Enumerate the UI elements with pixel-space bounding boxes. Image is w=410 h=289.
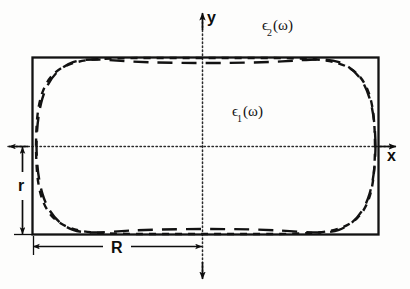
axes-group: [8, 13, 396, 279]
inner-medium-argument: (ω): [243, 103, 263, 119]
x-axis-label: x: [387, 148, 396, 164]
y-axis-label: y: [207, 10, 216, 26]
outer-medium-argument: (ω): [273, 17, 293, 33]
inner-medium-subscript: 1: [237, 113, 242, 124]
inner-medium-label: ϵ1(ω): [232, 104, 263, 122]
outer-medium-subscript: 2: [267, 27, 272, 38]
width-dimension-label: R: [111, 240, 123, 256]
outer-medium-label: ϵ2(ω): [262, 18, 293, 36]
height-dimension-label: r: [18, 178, 24, 194]
diagram-canvas: [0, 0, 410, 289]
